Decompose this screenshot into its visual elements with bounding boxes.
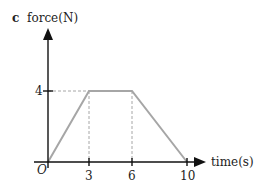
- axes: [34, 36, 198, 168]
- x-tick-label-10: 10: [180, 169, 195, 183]
- force-line: [48, 91, 187, 162]
- origin-label: O: [37, 163, 47, 177]
- y-axis-label: force(N): [27, 11, 78, 25]
- y-tick-label-4: 4: [35, 84, 43, 98]
- part-label: c: [12, 11, 19, 25]
- x-axis-label: time(s): [211, 155, 254, 169]
- guide-lines: [48, 91, 132, 162]
- chart-canvas: c force(N) 4 O 3 6 10 time(s): [0, 0, 264, 189]
- x-axis-arrow-icon: [194, 157, 206, 167]
- force-time-graph: c force(N) 4 O 3 6 10 time(s): [0, 0, 264, 189]
- x-tick-label-6: 6: [128, 169, 136, 183]
- x-tick-label-3: 3: [85, 169, 93, 183]
- y-axis-arrow-icon: [43, 28, 53, 40]
